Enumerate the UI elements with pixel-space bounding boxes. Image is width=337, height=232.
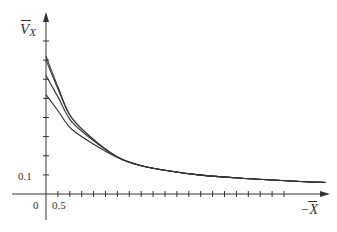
- x-axis-label: −X: [300, 203, 318, 217]
- y-tick-label-0-1: 0.1: [18, 171, 32, 182]
- chart-plot: [0, 0, 337, 232]
- curve-4: [46, 95, 326, 183]
- curve-1: [46, 56, 326, 182]
- x-axis-arrow-icon: [320, 191, 330, 197]
- curve-3: [46, 75, 326, 182]
- origin-label: 0: [33, 200, 39, 211]
- y-axis-arrow-icon: [43, 12, 49, 22]
- axes: [12, 14, 326, 220]
- curves: [46, 56, 326, 182]
- y-axis-label: VX: [20, 22, 36, 38]
- x-tick-label-0-5: 0.5: [52, 200, 66, 211]
- curve-2: [46, 60, 326, 182]
